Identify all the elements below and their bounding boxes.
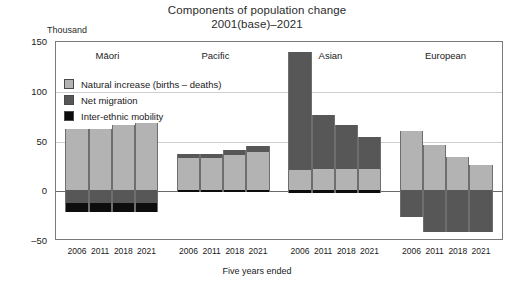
x-tick-pacific-2021: 2021: [243, 246, 273, 256]
bar-segment-net-migration: [312, 115, 335, 169]
bar-segment-natural-increase: [89, 129, 112, 190]
legend-label-natural-increase: Natural increase (births – deaths): [81, 79, 221, 90]
bar-segment-natural-increase: [446, 157, 469, 190]
bar-segment-inter-ethnic-mobility: [223, 190, 246, 192]
legend-item-natural-increase: Natural increase (births – deaths): [64, 76, 221, 92]
bar-segment-net-migration: [446, 190, 469, 232]
bar-segment-net-migration: [89, 190, 112, 203]
population-change-chart: Components of population change 2001(bas…: [0, 0, 514, 284]
x-tick-māori-2021: 2021: [132, 246, 162, 256]
bar-segment-net-migration: [469, 190, 492, 232]
legend-swatch-natural-increase: [64, 79, 74, 89]
bar-segment-net-migration: [335, 125, 358, 169]
bar-segment-net-migration: [423, 190, 446, 232]
group-label-asian: Asian: [283, 50, 378, 61]
legend-item-net-migration: Net migration: [64, 92, 221, 108]
bar-segment-natural-increase: [246, 152, 269, 189]
x-tick-european-2021: 2021: [466, 246, 496, 256]
legend-item-inter-ethnic-mobility: Inter-ethnic mobility: [64, 108, 221, 124]
legend-swatch-inter-ethnic-mobility: [64, 111, 74, 121]
bar-segment-net-migration: [288, 52, 311, 170]
bar-segment-inter-ethnic-mobility: [246, 190, 269, 192]
y-tick-minus50: –50: [5, 235, 47, 246]
x-axis-title: Five years ended: [0, 266, 514, 276]
bar-segment-net-migration: [65, 190, 88, 203]
group-label-pacific: Pacific: [168, 50, 263, 61]
group-label-maori: Māori: [60, 50, 155, 61]
bar-segment-inter-ethnic-mobility: [312, 190, 335, 193]
bar-segment-net-migration: [200, 154, 223, 158]
bar-segment-net-migration: [358, 137, 381, 170]
bar-segment-natural-increase: [223, 155, 246, 189]
bar-segment-inter-ethnic-mobility: [177, 190, 200, 192]
bar-segment-natural-increase: [400, 131, 423, 190]
legend-swatch-net-migration: [64, 95, 74, 105]
bar-segment-inter-ethnic-mobility: [135, 203, 158, 213]
bar-segment-inter-ethnic-mobility: [288, 190, 311, 193]
legend-label-inter-ethnic-mobility: Inter-ethnic mobility: [81, 111, 163, 122]
bar-segment-net-migration: [112, 190, 135, 203]
y-tick-100: 100: [5, 86, 47, 97]
bar-segment-natural-increase: [312, 169, 335, 190]
plot-area: [55, 41, 503, 240]
bar-segment-inter-ethnic-mobility: [89, 203, 112, 213]
chart-title: Components of population change: [0, 3, 514, 17]
bar-segment-inter-ethnic-mobility: [112, 203, 135, 213]
y-axis-unit-label: Thousand: [47, 25, 87, 35]
bar-segment-natural-increase: [135, 123, 158, 190]
bar-segment-natural-increase: [177, 158, 200, 190]
bar-segment-natural-increase: [469, 165, 492, 190]
bar-segment-natural-increase: [112, 125, 135, 190]
legend-label-net-migration: Net migration: [81, 95, 138, 106]
bar-segment-net-migration: [135, 190, 158, 203]
bar-segment-net-migration: [246, 146, 269, 152]
bar-segment-inter-ethnic-mobility: [335, 190, 358, 193]
y-tick-50: 50: [5, 136, 47, 147]
bar-segment-net-migration: [400, 190, 423, 218]
chart-legend: Natural increase (births – deaths) Net m…: [64, 76, 221, 124]
bar-segment-inter-ethnic-mobility: [65, 203, 88, 213]
bar-segment-natural-increase: [335, 169, 358, 190]
bar-segment-natural-increase: [423, 145, 446, 189]
bar-segment-natural-increase: [288, 170, 311, 190]
bar-segment-natural-increase: [200, 158, 223, 190]
bar-segment-net-migration: [177, 154, 200, 158]
bar-segment-net-migration: [223, 150, 246, 155]
bar-segment-inter-ethnic-mobility: [200, 190, 223, 192]
bar-segment-inter-ethnic-mobility: [358, 190, 381, 193]
y-tick-150: 150: [5, 36, 47, 47]
x-tick-asian-2021: 2021: [355, 246, 385, 256]
bar-segment-natural-increase: [65, 129, 88, 190]
bar-segment-natural-increase: [358, 169, 381, 190]
group-label-european: European: [398, 50, 493, 61]
y-tick-0: 0: [5, 185, 47, 196]
